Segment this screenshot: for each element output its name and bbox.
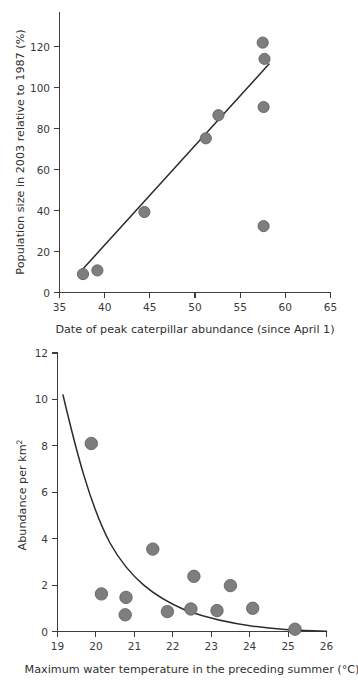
top-x-ticks [60,293,331,299]
top-x-tick-label: 55 [234,301,247,313]
bottom-x-tick-labels: 19 20 21 22 23 24 25 26 [51,640,334,652]
data-point [213,110,224,121]
data-point [258,221,269,232]
data-point [224,579,236,591]
data-point [200,133,211,144]
bottom-chart-panel: 0 2 4 6 8 10 12 19 20 21 [0,345,358,688]
data-point [119,609,131,621]
top-y-tick-labels: 0 20 40 60 80 100 120 [30,41,50,299]
data-point [258,101,269,112]
data-point [257,37,268,48]
bottom-x-tick-label: 19 [51,640,64,652]
bottom-x-tick-label: 21 [128,640,141,652]
data-point [95,588,107,600]
top-x-axis-title: Date of peak caterpillar abundance (sinc… [55,323,334,336]
top-x-tick-labels: 35 40 45 50 55 60 65 [53,301,337,313]
bottom-x-tick-label: 26 [320,640,334,652]
data-point [211,604,223,616]
data-point [139,206,150,217]
bottom-y-axis-title-base: Abundance per km [16,444,29,550]
data-point [85,437,97,449]
data-point [161,605,173,617]
data-point [77,269,88,280]
top-y-tick-label: 100 [30,82,50,94]
bottom-y-axis-title: Abundance per km2 [15,439,29,550]
bottom-y-tick-labels: 0 2 4 6 8 10 12 [35,347,49,638]
top-y-axis-title: Population size in 2003 relative to 1987… [14,29,27,274]
data-point [92,265,103,276]
top-y-tick-label: 60 [37,164,50,176]
data-point [120,591,132,603]
bottom-y-axis-title-superscript: 2 [15,439,24,444]
top-chart-panel: 0 20 40 60 80 100 120 35 40 45 [0,0,358,345]
top-x-tick-label: 35 [53,301,66,313]
two-panel-scatter-figure: 0 20 40 60 80 100 120 35 40 45 [0,0,358,688]
data-point [188,570,200,582]
data-point [185,603,197,615]
top-trendline [82,64,269,270]
bottom-y-tick-label: 0 [41,626,48,638]
bottom-x-tick-label: 25 [281,640,294,652]
top-y-tick-label: 20 [37,246,50,258]
data-point [289,623,301,635]
data-point [247,602,259,614]
top-y-tick-label: 0 [43,287,50,299]
bottom-x-tick-label: 23 [205,640,218,652]
data-point [147,543,159,555]
top-x-tick-label: 65 [324,301,337,313]
bottom-x-tick-label: 22 [166,640,179,652]
bottom-x-axis-title: Maximum water temperature in the precedi… [25,663,358,676]
bottom-x-ticks [58,632,327,638]
bottom-y-tick-label: 8 [41,440,48,452]
top-y-tick-label: 120 [30,41,50,53]
top-chart-svg: 0 20 40 60 80 100 120 35 40 45 [0,0,358,345]
bottom-chart-svg: 0 2 4 6 8 10 12 19 20 21 [0,345,358,688]
bottom-y-tick-label: 6 [41,486,48,498]
top-y-tick-label: 80 [37,123,50,135]
top-x-tick-label: 50 [188,301,201,313]
svg-text:Abundance per km2: Abundance per km2 [15,439,29,550]
top-x-tick-label: 60 [279,301,292,313]
bottom-x-tick-label: 20 [89,640,102,652]
bottom-y-tick-label: 10 [35,393,48,405]
bottom-y-tick-label: 12 [35,347,48,359]
bottom-y-tick-label: 4 [41,533,48,545]
top-y-ticks [54,47,60,293]
top-x-tick-label: 45 [143,301,156,313]
bottom-x-tick-label: 24 [243,640,257,652]
bottom-data-points [85,437,301,635]
top-x-tick-label: 40 [98,301,111,313]
bottom-y-tick-label: 2 [41,579,48,591]
data-point [259,53,270,64]
top-y-tick-label: 40 [37,205,50,217]
bottom-y-ticks [52,353,58,632]
